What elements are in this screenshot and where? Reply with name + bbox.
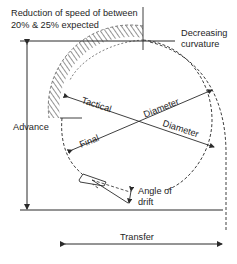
decreasing-curvature-label-line2: curvature (181, 39, 219, 49)
decreasing-curvature-label-line1: Decreasing (181, 28, 227, 38)
transfer-label: Transfer (120, 232, 154, 242)
angle-of-drift-label-line2: drift (138, 197, 153, 207)
speed-reduction-label-line1: Reduction of speed of between (11, 8, 138, 18)
ship-track-line (92, 180, 130, 192)
advance-label: Advance (13, 122, 49, 132)
ship-heading-line (92, 180, 128, 203)
angle-of-drift-label-line1: Angle of (138, 186, 172, 196)
drift-angle-arc (129, 191, 131, 203)
speed-reduction-label-line2: 20% & 25% expected (11, 20, 99, 30)
